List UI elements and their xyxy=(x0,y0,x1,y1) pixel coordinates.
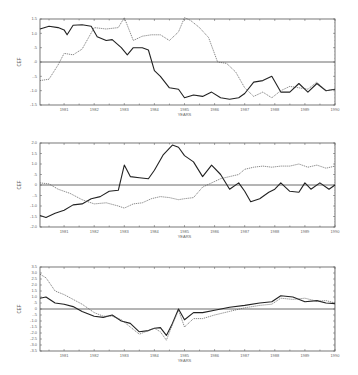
chart-1: 1.51.0.5.0-.5-1.0-1.51981198219831984198… xyxy=(17,16,340,117)
y-tick-label: -.5 xyxy=(32,193,37,198)
y-tick-label: 2.0 xyxy=(31,282,37,287)
x-tick-label: 1986 xyxy=(210,353,220,358)
y-axis-title: CEF xyxy=(17,57,22,66)
x-tick-label: 1984 xyxy=(150,353,160,358)
x-tick-label: 1988 xyxy=(270,229,280,234)
chart-2: 2.01.51.0.50-.5-1.0-1.5-2.01981198219831… xyxy=(17,140,340,239)
x-tick-label: 1989 xyxy=(300,107,310,112)
x-axis-title: YEARS xyxy=(178,112,192,117)
series-solid-line xyxy=(40,145,335,218)
y-tick-label: -.5 xyxy=(32,74,37,79)
y-tick-label: 3.0 xyxy=(31,270,37,275)
x-tick-label: 1987 xyxy=(240,229,250,234)
x-tick-label: 1981 xyxy=(60,353,70,358)
y-tick-label: 1.0 xyxy=(31,31,37,36)
x-tick-label: 1990 xyxy=(331,229,341,234)
x-tick-label: 1981 xyxy=(60,229,70,234)
chart-figure: 1.51.0.5.0-.5-1.0-1.51981198219831984198… xyxy=(0,0,358,375)
y-axis-title: CEF xyxy=(17,304,22,313)
y-tick-label: 0 xyxy=(35,306,38,311)
x-tick-label: 1982 xyxy=(90,353,100,358)
x-tick-label: 1983 xyxy=(120,229,130,234)
chart-3: 3.53.02.52.01.51.0.50-.5-1.0-1.5-2.0-2.5… xyxy=(17,264,340,363)
series-dashed-line xyxy=(40,18,335,98)
y-tick-label: -2.5 xyxy=(30,336,38,341)
y-tick-label: -2.0 xyxy=(30,330,38,335)
x-axis-title: YEARS xyxy=(178,358,192,363)
y-tick-label: 1.5 xyxy=(31,288,37,293)
y-tick-label: -3.0 xyxy=(30,342,38,347)
x-tick-label: 1982 xyxy=(90,107,100,112)
series-dashed-line xyxy=(40,164,335,208)
y-tick-label: .5 xyxy=(34,172,38,177)
x-tick-label: 1981 xyxy=(60,107,70,112)
y-tick-label: .0 xyxy=(34,59,38,64)
y-tick-label: -1.0 xyxy=(30,88,38,93)
x-tick-label: 1988 xyxy=(270,107,280,112)
y-tick-label: -1.0 xyxy=(30,318,38,323)
x-tick-label: 1982 xyxy=(90,229,100,234)
x-tick-label: 1989 xyxy=(300,229,310,234)
x-tick-label: 1990 xyxy=(331,353,341,358)
y-tick-label: -1.0 xyxy=(30,203,38,208)
y-tick-label: 1.0 xyxy=(31,161,37,166)
x-tick-label: 1986 xyxy=(210,229,220,234)
y-tick-label: 1.5 xyxy=(31,151,37,156)
y-axis-title: CEF xyxy=(17,180,22,189)
x-tick-label: 1987 xyxy=(240,107,250,112)
x-tick-label: 1989 xyxy=(300,353,310,358)
y-tick-label: 2.0 xyxy=(31,140,37,145)
x-axis-title: YEARS xyxy=(178,234,192,239)
series-dashed-line xyxy=(40,274,335,340)
x-tick-label: 1984 xyxy=(150,229,160,234)
y-tick-label: -.5 xyxy=(32,312,37,317)
y-tick-label: .5 xyxy=(34,300,38,305)
y-tick-label: -1.5 xyxy=(30,214,38,219)
x-tick-label: 1983 xyxy=(120,107,130,112)
x-tick-label: 1988 xyxy=(270,353,280,358)
y-tick-label: 2.5 xyxy=(31,276,37,281)
x-tick-label: 1987 xyxy=(240,353,250,358)
x-tick-label: 1990 xyxy=(331,107,341,112)
series-solid-line xyxy=(40,296,335,336)
x-tick-label: 1984 xyxy=(150,107,160,112)
y-tick-label: 1.5 xyxy=(31,16,37,21)
y-tick-label: -2.0 xyxy=(30,224,38,229)
y-tick-label: -1.5 xyxy=(30,324,38,329)
y-tick-label: -1.5 xyxy=(30,102,38,107)
y-tick-label: 1.0 xyxy=(31,294,37,299)
x-tick-label: 1986 xyxy=(210,107,220,112)
y-tick-label: -3.5 xyxy=(30,348,38,353)
x-tick-label: 1983 xyxy=(120,353,130,358)
y-tick-label: 0 xyxy=(35,182,38,187)
y-tick-label: 3.5 xyxy=(31,264,37,269)
y-tick-label: .5 xyxy=(34,45,38,50)
